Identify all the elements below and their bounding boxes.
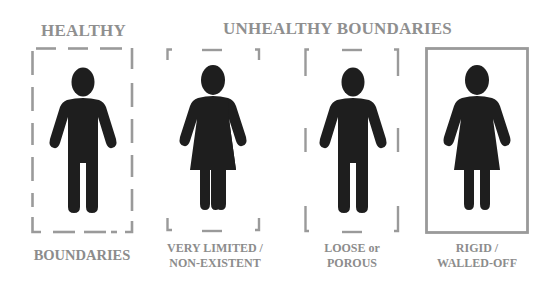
caption-very-limited: VERY LIMITED / NON-EXISTENT xyxy=(150,241,280,271)
male-figure-icon xyxy=(48,67,118,213)
caption-line: BOUNDARIES xyxy=(24,248,140,263)
caption-healthy: BOUNDARIES xyxy=(24,248,140,263)
caption-line: VERY LIMITED / xyxy=(150,241,280,256)
caption-line: NON-EXISTENT xyxy=(150,256,280,271)
healthy-title: HEALTHY xyxy=(41,22,126,39)
caption-line: WALLED-OFF xyxy=(420,256,534,271)
caption-line: POROUS xyxy=(300,256,404,271)
caption-rigid: RIGID / WALLED-OFF xyxy=(420,241,534,271)
caption-line: RIGID / xyxy=(420,241,534,256)
caption-loose: LOOSE or POROUS xyxy=(300,241,404,271)
caption-line: LOOSE or xyxy=(300,241,404,256)
female-figure-icon xyxy=(178,64,248,210)
female-figure-icon xyxy=(442,64,512,210)
male-figure-icon xyxy=(318,67,388,213)
unhealthy-boundaries-title: UNHEALTHY BOUNDARIES xyxy=(223,20,452,37)
